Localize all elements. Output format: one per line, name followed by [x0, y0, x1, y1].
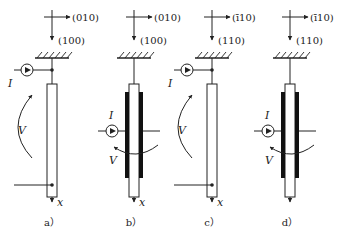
axis-label-down: (110) — [296, 35, 323, 46]
axis-label-down: (100) — [58, 35, 85, 46]
hatch-mark — [293, 52, 298, 58]
hatch-mark — [305, 52, 310, 58]
hatch-mark — [125, 52, 130, 58]
hatch-mark — [37, 52, 42, 58]
hatch-mark — [43, 52, 48, 58]
hatch-mark — [61, 52, 66, 58]
side-electrode-right — [139, 92, 143, 178]
hatch-mark — [55, 52, 60, 58]
hatch-mark — [119, 52, 124, 58]
voltage-label: V — [18, 124, 27, 137]
hatch-mark — [49, 52, 54, 58]
side-electrode-left — [281, 92, 285, 178]
hatch-mark — [67, 52, 72, 58]
current-label: I — [108, 109, 114, 122]
contact-node — [50, 183, 54, 187]
axis-label-right: (010) — [154, 12, 181, 23]
hatch-mark — [149, 52, 154, 58]
hatch-mark — [299, 52, 304, 58]
hatch-mark — [197, 52, 202, 58]
x-axis-label: x — [139, 196, 146, 209]
current-label: I — [167, 77, 173, 90]
x-axis-label: x — [217, 196, 224, 209]
current-label: I — [7, 77, 13, 90]
axis-label-down: (100) — [140, 35, 167, 46]
voltage-label: V — [265, 154, 274, 167]
hatch-mark — [275, 52, 280, 58]
crystal-rod — [47, 84, 57, 197]
panel-caption: c） — [204, 217, 220, 228]
hatch-mark — [281, 52, 286, 58]
side-electrode-right — [295, 92, 299, 178]
hatch-mark — [215, 52, 220, 58]
crystal-rod — [129, 84, 139, 197]
hatch-mark — [209, 52, 214, 58]
panel-c: (ī10)(110)IVxc） — [167, 10, 256, 228]
x-axis-label: x — [57, 196, 64, 209]
hatch-mark — [203, 52, 208, 58]
panel-caption: d） — [282, 217, 298, 228]
crystal-rod-diagram: (010)(100)IVxa）(010)(100)IVxb）(ī10)(110)… — [0, 0, 341, 233]
panel-b: (010)(100)IVxb） — [98, 10, 181, 228]
voltage-label: V — [178, 124, 187, 137]
side-electrode-left — [125, 92, 129, 178]
panel-caption: a） — [44, 217, 60, 228]
axis-label-right: (ī10) — [232, 12, 256, 23]
hatch-mark — [131, 52, 136, 58]
hatch-mark — [227, 52, 232, 58]
contact-node — [50, 68, 54, 72]
hatch-mark — [287, 52, 292, 58]
hatch-mark — [137, 52, 142, 58]
voltage-label: V — [109, 154, 118, 167]
axis-label-right: (010) — [72, 12, 99, 23]
contact-node — [210, 183, 214, 187]
axis-label-right: (ī10) — [310, 12, 334, 23]
crystal-rod — [285, 84, 295, 197]
crystal-rod — [207, 84, 217, 197]
panel-d: (ī10)(110)IVd） — [254, 10, 334, 228]
panel-caption: b） — [126, 217, 142, 228]
hatch-mark — [143, 52, 148, 58]
current-label: I — [264, 109, 270, 122]
hatch-mark — [221, 52, 226, 58]
axis-label-down: (110) — [218, 35, 245, 46]
contact-node — [210, 68, 214, 72]
panel-a: (010)(100)IVxa） — [7, 10, 99, 228]
